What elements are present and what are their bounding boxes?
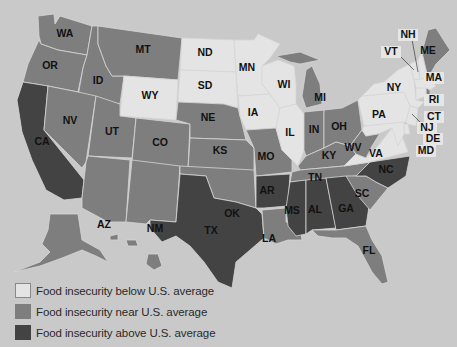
label-VT: VT (384, 45, 398, 57)
label-WI: WI (278, 78, 291, 90)
label-IN: IN (309, 123, 320, 135)
label-AL: AL (308, 203, 323, 215)
legend-label-below: Food insecurity below U.S. average (36, 285, 214, 297)
label-UT: UT (105, 125, 120, 137)
label-CO: CO (152, 136, 168, 148)
legend-label-near: Food insecurity near U.S. average (36, 306, 207, 318)
state-AZ[interactable] (82, 156, 130, 222)
label-MT: MT (135, 43, 151, 55)
swatch-below (15, 283, 31, 298)
label-MA: MA (426, 71, 443, 83)
label-ME: ME (420, 44, 436, 56)
state-FL[interactable] (312, 226, 388, 284)
swatch-above (15, 325, 31, 340)
label-AR: AR (259, 184, 275, 196)
legend: Food insecurity below U.S. average Food … (15, 280, 215, 343)
state-DE[interactable] (404, 124, 410, 134)
state-AK[interactable] (14, 214, 108, 272)
legend-label-above: Food insecurity above U.S. average (36, 327, 215, 339)
label-OR: OR (42, 59, 58, 71)
label-OK: OK (224, 207, 240, 219)
label-SD: SD (198, 79, 213, 91)
state-HI[interactable] (110, 234, 162, 270)
label-MN: MN (239, 61, 255, 73)
label-ND: ND (197, 46, 213, 58)
label-WY: WY (142, 89, 159, 101)
label-SC: SC (355, 187, 370, 199)
label-WA: WA (57, 27, 74, 39)
swatch-near (15, 304, 31, 319)
label-MD: MD (418, 144, 435, 156)
label-NY: NY (387, 81, 402, 93)
label-NC: NC (378, 163, 394, 175)
label-IA: IA (248, 106, 259, 118)
legend-item-above: Food insecurity above U.S. average (15, 322, 215, 343)
label-FL: FL (363, 244, 376, 256)
legend-item-near: Food insecurity near U.S. average (15, 301, 215, 322)
label-KS: KS (213, 144, 228, 156)
state-NM[interactable] (126, 160, 180, 224)
label-IL: IL (285, 126, 295, 138)
label-DE: DE (426, 132, 441, 144)
label-TN: TN (308, 171, 322, 183)
label-MO: MO (258, 150, 275, 162)
label-AZ: AZ (97, 218, 112, 230)
label-NV: NV (63, 114, 78, 126)
label-VA: VA (369, 147, 383, 159)
label-RI: RI (429, 93, 440, 105)
label-NE: NE (201, 111, 216, 123)
label-MS: MS (284, 204, 300, 216)
label-NH: NH (400, 28, 415, 40)
legend-item-below: Food insecurity below U.S. average (15, 280, 215, 301)
label-KY: KY (322, 149, 337, 161)
label-CA: CA (34, 135, 50, 147)
label-MI: MI (314, 91, 326, 103)
label-WV: WV (345, 141, 362, 153)
label-GA: GA (338, 202, 354, 214)
label-PA: PA (372, 108, 386, 120)
label-LA: LA (262, 232, 276, 244)
label-ID: ID (93, 74, 104, 86)
label-OH: OH (331, 120, 347, 132)
label-TX: TX (204, 224, 217, 236)
label-NM: NM (147, 222, 164, 234)
